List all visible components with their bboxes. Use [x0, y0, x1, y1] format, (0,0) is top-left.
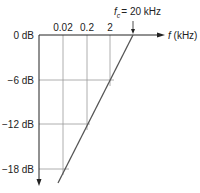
y-tick-0: 0 dB — [13, 30, 34, 41]
response-line — [58, 35, 133, 183]
x-tick-0.02: 0.02 — [53, 22, 73, 33]
y-tick-minus6: −6 dB — [8, 75, 35, 86]
x-axis-arrow-icon — [157, 33, 165, 38]
y-axis-arrow-icon — [37, 179, 42, 186]
y-tick-minus12: −12 dB — [2, 119, 34, 130]
x-tick-0.2: 0.2 — [80, 22, 94, 33]
x-axis-label: f (kHz) — [168, 30, 197, 41]
y-tick-minus18: −18 dB — [2, 164, 34, 175]
fc-arrow-icon — [131, 29, 135, 34]
x-tick-2: 2 — [107, 22, 113, 33]
fc-label-sub: c — [117, 12, 121, 19]
fc-label-value: = 20 kHz — [121, 6, 161, 17]
svg-text:fc= 20 kHz: fc= 20 kHz — [114, 6, 161, 19]
bode-diagram: fc= 20 kHz 0.02 0.2 2 f (kHz) 0 dB −6 dB… — [0, 0, 200, 193]
